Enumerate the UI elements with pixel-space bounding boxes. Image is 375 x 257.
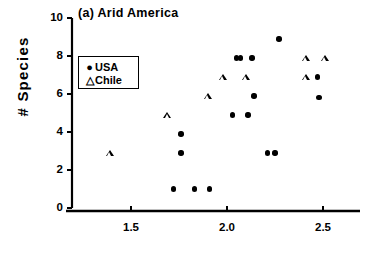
data-point-chile [106, 150, 114, 156]
data-point-chile [219, 74, 227, 80]
scatter-chart: # Species (a) Arid America 0246810 1.52.… [0, 0, 375, 257]
data-point-chile [302, 55, 310, 61]
legend-label-chile: Chile [95, 74, 122, 86]
data-point-usa [245, 112, 250, 117]
data-point-usa [230, 112, 235, 117]
x-tick-label: 2.0 [207, 221, 247, 233]
open-triangle-icon: △ [84, 74, 95, 86]
data-point-chile [163, 112, 171, 118]
y-tick-label: 0 [0, 201, 63, 213]
legend-item-usa: ●USA [84, 61, 118, 73]
data-point-usa [171, 186, 176, 191]
legend-item-chile: △Chile [84, 74, 122, 86]
x-tick-label: 1.5 [111, 221, 151, 233]
data-point-usa [315, 74, 320, 79]
x-tick-label: 2.5 [303, 221, 343, 233]
filled-circle-icon: ● [84, 61, 95, 73]
y-tick-label: 8 [0, 49, 63, 61]
y-tick-label: 4 [0, 125, 63, 137]
data-point-usa [192, 186, 197, 191]
data-point-usa [178, 150, 183, 155]
chart-legend: ●USA △Chile [78, 56, 139, 89]
data-point-usa [272, 150, 277, 155]
data-point-chile [242, 74, 250, 80]
data-point-usa [178, 131, 183, 136]
data-point-usa [251, 93, 256, 98]
legend-label-usa: USA [95, 61, 118, 73]
y-tick-label: 10 [0, 11, 63, 23]
data-point-usa [276, 36, 281, 41]
y-tick-label: 6 [0, 87, 63, 99]
data-point-chile [302, 74, 310, 80]
data-point-usa [238, 55, 243, 60]
data-point-chile [321, 55, 329, 61]
data-point-usa [265, 150, 270, 155]
y-tick-label: 2 [0, 163, 63, 175]
data-point-usa [249, 55, 254, 60]
data-point-chile [204, 93, 212, 99]
